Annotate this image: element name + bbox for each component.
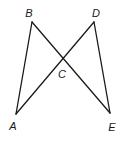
segment-ad bbox=[16, 22, 94, 114]
label-point-c: C bbox=[58, 69, 66, 80]
segment-ab bbox=[16, 22, 32, 114]
segment-be bbox=[32, 22, 110, 113]
label-point-d: D bbox=[92, 8, 100, 19]
label-point-b: B bbox=[25, 8, 32, 19]
segment-de bbox=[94, 22, 110, 113]
geometry-diagram: B D C A E bbox=[0, 0, 120, 141]
label-point-e: E bbox=[108, 122, 115, 133]
label-point-a: A bbox=[9, 121, 16, 132]
